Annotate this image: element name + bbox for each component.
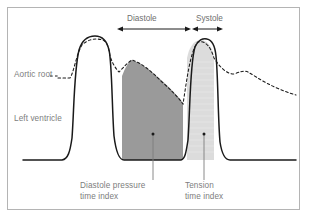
tti-label-line-1: Tension: [185, 181, 214, 190]
diastole-pressure-time-index-label: Diastole pressuretime index: [80, 181, 145, 202]
left-ventricle-label: Left ventricle: [14, 114, 62, 125]
diastole-arrow: [117, 27, 191, 32]
systole-arrow: [192, 27, 223, 32]
dpti-label-line-1: Diastole pressure: [80, 181, 145, 190]
waveform-plot: [0, 0, 309, 219]
tension-time-index-region: [187, 40, 214, 160]
systole-phase-label: Systole: [196, 14, 223, 24]
tension-time-index-label: Tensiontime index: [185, 181, 223, 202]
diastole-phase-label: Diastole: [127, 14, 157, 24]
figure-root: Aortic root Left ventricle Diastole pres…: [0, 0, 309, 219]
tti-label-line-2: time index: [185, 192, 223, 201]
aortic-root-curve: [58, 39, 296, 104]
dpti-label-line-2: time index: [80, 192, 118, 201]
diastole-pressure-time-index-region: [122, 60, 183, 160]
aortic-root-label: Aortic root: [14, 70, 52, 81]
